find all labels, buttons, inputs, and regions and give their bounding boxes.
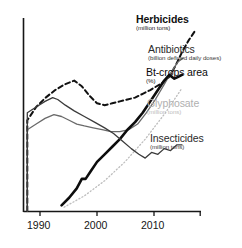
chart-plot-area	[0, 0, 242, 248]
series-label-antibiotics: Antibiotics (billion defined daily doses…	[148, 44, 221, 62]
series-label-antibiotics-name: Antibiotics	[148, 44, 221, 55]
x-tick-label-2000: 2000	[84, 219, 107, 231]
x-tick-label-2010: 2010	[141, 219, 164, 231]
series-label-glyphosate-unit: (million tons)	[147, 109, 199, 115]
series-label-bt-crops-area: Bt-crops area (%)	[146, 67, 208, 85]
series-label-bt-crops-area-name: Bt-crops area	[146, 67, 208, 78]
series-label-antibiotics-unit: (billion defined daily doses)	[148, 55, 221, 61]
series-label-insecticides-unit: (million tons)	[150, 144, 204, 150]
x-tick-label-1990: 1990	[27, 219, 50, 231]
series-label-herbicides-name: Herbicides	[136, 14, 189, 25]
series-label-glyphosate-name: Glyphosate	[147, 98, 199, 109]
series-label-herbicides: Herbicides (million tons)	[136, 14, 189, 32]
series-label-herbicides-unit: (million tons)	[136, 25, 189, 31]
series-label-bt-crops-area-unit: (%)	[146, 78, 208, 84]
series-label-glyphosate: Glyphosate (million tons)	[147, 98, 199, 116]
series-label-insecticides: Insecticides (million tons)	[150, 133, 204, 151]
series-label-insecticides-name: Insecticides	[150, 133, 204, 144]
chart-container: 1990 2000 2010 Herbicides (million tons)…	[0, 0, 242, 248]
